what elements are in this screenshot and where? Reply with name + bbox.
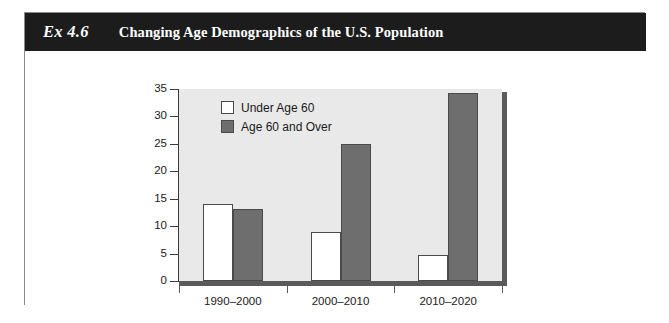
legend-swatch-icon-under [221, 101, 234, 114]
y-axis-label-wrap: 30 [135, 116, 167, 117]
legend-item-under-age-60: Under Age 60 [221, 99, 356, 116]
y-axis-tick-label: 10 [145, 219, 167, 231]
y-axis-tick-label: 25 [145, 137, 167, 149]
x-axis-category-label: 2010–2020 [393, 295, 503, 307]
plot-right-shadow [502, 92, 507, 286]
x-axis-category-label: 2000–2010 [286, 295, 396, 307]
bar-under-age-60 [418, 255, 448, 281]
y-axis-label-wrap: 5 [135, 254, 167, 255]
exhibit-header: Ex 4.6 Changing Age Demographics of the … [25, 13, 646, 51]
exhibit-title: Changing Age Demographics of the U.S. Po… [119, 24, 444, 41]
y-axis-label-wrap: 25 [135, 144, 167, 145]
y-axis-tick [170, 171, 179, 172]
y-axis-tick [170, 199, 179, 200]
y-axis-label-wrap: 15 [135, 199, 167, 200]
y-axis-label-wrap: 10 [135, 226, 167, 227]
y-axis-tick-label: 30 [145, 109, 167, 121]
legend-item-age-60-and-over: Age 60 and Over [221, 118, 356, 135]
y-axis-tick-label: 15 [145, 192, 167, 204]
bar-age-60-and-over [341, 144, 371, 281]
y-axis-tick [170, 281, 179, 282]
y-axis-tick-label: 5 [145, 247, 167, 259]
legend-swatch-icon-over [221, 120, 234, 133]
legend-label-under: Under Age 60 [241, 101, 314, 115]
y-axis-label-wrap: 20 [135, 171, 167, 172]
x-axis-tick [394, 286, 395, 293]
y-axis-label-wrap: 0 [135, 281, 167, 282]
exhibit-number: Ex 4.6 [43, 22, 89, 42]
bar-under-age-60 [203, 204, 233, 281]
exhibit-frame: Ex 4.6 Changing Age Demographics of the … [24, 12, 645, 305]
x-axis-tick [502, 286, 503, 293]
bar-age-60-and-over [233, 209, 263, 281]
chart-legend: Under Age 60 Age 60 and Over [221, 99, 356, 137]
chart-plot: 05101520253035 1990–20002000–20102010–20… [25, 51, 646, 306]
y-axis-tick [170, 116, 179, 117]
x-axis-tick [287, 286, 288, 293]
y-axis-tick-label: 20 [145, 164, 167, 176]
x-axis-category-label: 1990–2000 [178, 295, 288, 307]
y-axis-tick-label: 35 [145, 82, 167, 94]
bar-age-60-and-over [448, 93, 478, 281]
y-axis-tick [170, 144, 179, 145]
x-axis-tick [179, 286, 180, 293]
x-axis-baseline [179, 281, 507, 286]
y-axis-tick [170, 254, 179, 255]
y-axis-label-wrap: 35 [135, 89, 167, 90]
y-axis-tick [170, 89, 179, 90]
y-axis-tick-label: 0 [145, 274, 167, 286]
bar-under-age-60 [311, 232, 341, 281]
y-axis-tick [170, 226, 179, 227]
legend-label-over: Age 60 and Over [241, 120, 332, 134]
